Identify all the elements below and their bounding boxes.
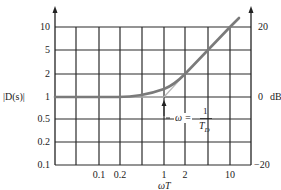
annotation-den-sub: D: [205, 126, 210, 134]
y2-tick-minus-20: −20: [254, 160, 270, 170]
y-tick-0.5: 0.5: [20, 114, 50, 124]
y-axis-label: |D(s)|: [3, 92, 25, 102]
y2-tick-20: 20: [258, 22, 268, 32]
y-tick-0.1: 0.1: [20, 160, 50, 170]
x-tick-10: 10: [218, 170, 242, 180]
y-tick-5: 5: [20, 45, 50, 55]
annotation-omega-equals: ω =: [174, 113, 192, 123]
magnitude-curve: [55, 18, 239, 97]
x-tick-0.2: 0.2: [108, 170, 132, 180]
y2-tick-0: 0: [258, 92, 263, 102]
right-axis-arrow-icon: [249, 6, 254, 13]
x-tick-2: 2: [173, 170, 197, 180]
x-axis-label: ωT: [158, 181, 171, 190]
annotation-denominator: TD: [199, 121, 210, 135]
db-unit-label: dB: [270, 92, 281, 102]
corner-marker-arrow-icon: [162, 100, 167, 106]
left-axis-arrow-icon: [53, 6, 58, 13]
y-tick-10: 10: [20, 22, 50, 32]
annotation-numerator: 1: [203, 106, 208, 116]
y-tick-0.2: 0.2: [20, 137, 50, 147]
y-tick-2: 2: [20, 69, 50, 79]
